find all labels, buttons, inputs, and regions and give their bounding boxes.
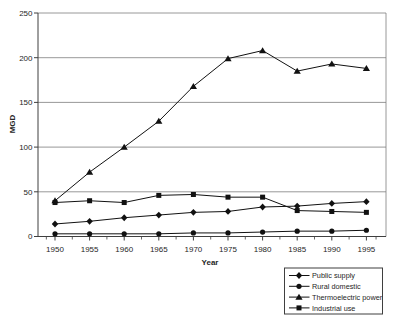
series-line-public-supply	[55, 202, 366, 224]
series-marker-thermoelectric-power-1990	[328, 61, 335, 67]
series-marker-rural-domestic-1965	[156, 231, 161, 236]
x-tick-label-1990: 1990	[323, 245, 341, 254]
x-axis-title: Year	[202, 258, 219, 267]
series-marker-rural-domestic-1975	[225, 230, 230, 235]
series-marker-rural-domestic-1980	[260, 229, 265, 234]
axis-layer: 0501001502002501950195519601965197019751…	[19, 9, 386, 254]
series-marker-thermoelectric-power-1980	[259, 47, 266, 53]
y-tick-label-50: 50	[24, 188, 33, 197]
series-marker-public-supply-1960	[121, 214, 127, 221]
x-tick-label-1985: 1985	[288, 245, 306, 254]
series-marker-industrial-use-1960	[122, 200, 127, 205]
series-marker-rural-domestic-1970	[191, 230, 196, 235]
series-marker-industrial-use-1950	[53, 200, 58, 205]
y-tick-label-150: 150	[19, 98, 33, 107]
y-axis-title: MGD	[8, 114, 17, 133]
legend-marker-rural-domestic	[296, 284, 301, 289]
x-tick-label-1950: 1950	[46, 245, 64, 254]
series-marker-rural-domestic-1995	[364, 228, 369, 233]
x-tick-label-1970: 1970	[185, 245, 203, 254]
series-line-thermoelectric-power	[55, 51, 366, 201]
legend-label-public-supply: Public supply	[312, 271, 355, 280]
series-marker-public-supply-1950	[52, 221, 58, 228]
series-line-industrial-use	[55, 194, 366, 212]
series-marker-industrial-use-1955	[87, 198, 92, 203]
series-marker-industrial-use-1970	[191, 192, 196, 197]
legend-label-thermoelectric-power: Thermoelectric power	[312, 293, 383, 302]
series-marker-thermoelectric-power-1955	[86, 169, 93, 175]
line-chart-figure: 0501001502002501950195519601965197019751…	[0, 0, 396, 324]
series-marker-industrial-use-1990	[329, 209, 334, 214]
series-marker-industrial-use-1975	[226, 195, 231, 200]
x-tick-label-1980: 1980	[254, 245, 272, 254]
y-tick-label-100: 100	[19, 143, 33, 152]
y-tick-label-250: 250	[19, 9, 33, 18]
x-tick-label-1975: 1975	[219, 245, 237, 254]
series-marker-public-supply-1995	[363, 198, 369, 205]
series-marker-industrial-use-1995	[364, 210, 369, 215]
series-marker-public-supply-1980	[259, 204, 265, 211]
series-layer	[51, 47, 370, 236]
series-marker-industrial-use-1980	[260, 195, 265, 200]
series-marker-rural-domestic-1985	[295, 229, 300, 234]
series-marker-rural-domestic-1950	[52, 231, 57, 236]
x-tick-label-1955: 1955	[81, 245, 99, 254]
x-tick-label-1965: 1965	[150, 245, 168, 254]
series-marker-public-supply-1970	[190, 209, 196, 216]
series-marker-rural-domestic-1960	[122, 231, 127, 236]
chart-svg: 0501001502002501950195519601965197019751…	[0, 0, 396, 324]
series-marker-public-supply-1975	[225, 208, 231, 215]
y-tick-label-0: 0	[28, 232, 33, 241]
legend-label-industrial-use: Industrial use	[312, 304, 355, 313]
y-tick-label-200: 200	[19, 54, 33, 63]
x-tick-label-1995: 1995	[358, 245, 376, 254]
series-marker-public-supply-1955	[86, 218, 92, 225]
series-marker-public-supply-1990	[329, 200, 335, 207]
legend-marker-industrial-use	[297, 305, 302, 310]
series-marker-rural-domestic-1955	[87, 231, 92, 236]
series-marker-rural-domestic-1990	[329, 229, 334, 234]
legend-label-rural-domestic: Rural domestic	[312, 282, 361, 291]
series-marker-industrial-use-1985	[295, 208, 300, 213]
series-line-rural-domestic	[55, 230, 366, 234]
x-tick-label-1960: 1960	[115, 245, 133, 254]
legend: Public supplyRural domesticThermoelectri…	[285, 268, 383, 314]
series-marker-industrial-use-1965	[156, 193, 161, 198]
series-marker-public-supply-1965	[156, 212, 162, 219]
